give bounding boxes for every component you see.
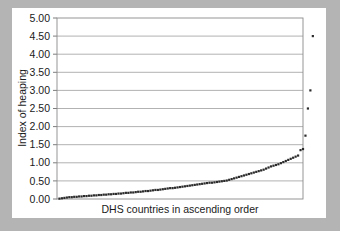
- data-point: [167, 187, 169, 189]
- data-point: [265, 167, 267, 169]
- x-axis-title: DHS countries in ascending order: [102, 203, 260, 215]
- data-point: [206, 182, 208, 184]
- y-tick-label: 2.00: [30, 120, 51, 132]
- data-point: [275, 164, 277, 166]
- data-point: [135, 191, 137, 193]
- data-point: [100, 194, 102, 196]
- data-point: [238, 176, 240, 178]
- data-point: [105, 194, 107, 196]
- data-point: [270, 165, 272, 167]
- data-point: [179, 186, 181, 188]
- data-point: [285, 160, 287, 162]
- y-tick-label: 4.00: [30, 48, 51, 60]
- data-point: [71, 196, 73, 198]
- data-point: [184, 185, 186, 187]
- data-point: [90, 195, 92, 197]
- data-point: [277, 163, 279, 165]
- data-point: [122, 192, 124, 194]
- data-point: [76, 196, 78, 198]
- data-point: [88, 195, 90, 197]
- data-point: [208, 182, 210, 184]
- data-point: [66, 196, 68, 198]
- data-point: [142, 190, 144, 192]
- data-point: [221, 180, 223, 182]
- data-point: [295, 156, 297, 158]
- data-point: [199, 183, 201, 185]
- chart-card: 5.004.504.003.503.002.502.001.501.000.50…: [12, 8, 326, 218]
- data-point: [95, 194, 97, 196]
- y-tick-label: 2.50: [30, 102, 51, 114]
- data-point: [85, 195, 87, 197]
- data-point: [272, 165, 274, 167]
- data-point: [282, 161, 284, 163]
- data-point: [181, 186, 183, 188]
- data-point: [115, 193, 117, 195]
- data-point: [152, 189, 154, 191]
- data-point: [147, 190, 149, 192]
- data-point: [260, 169, 262, 171]
- data-point: [149, 190, 151, 192]
- data-point: [164, 188, 166, 190]
- data-point: [132, 191, 134, 193]
- y-axis-title: Index of heaping: [16, 69, 28, 147]
- y-tick-label: 3.50: [30, 66, 51, 78]
- data-point: [297, 154, 299, 156]
- data-point: [81, 195, 83, 197]
- series-outliers: [299, 35, 314, 151]
- data-point: [250, 172, 252, 174]
- data-point: [280, 162, 282, 164]
- data-point: [117, 192, 119, 194]
- data-point: [154, 189, 156, 191]
- data-point: [223, 180, 225, 182]
- data-point: [245, 174, 247, 176]
- y-axis-tick-labels: 5.004.504.003.503.002.502.001.501.000.50…: [30, 12, 51, 205]
- data-point: [172, 187, 174, 189]
- data-point: [110, 193, 112, 195]
- data-point: [98, 194, 100, 196]
- y-tick-label: 0.50: [30, 175, 51, 187]
- data-point: [140, 191, 142, 193]
- data-point: [267, 166, 269, 168]
- data-point: [176, 186, 178, 188]
- y-tick-label: 5.00: [30, 12, 51, 24]
- gridlines: [57, 36, 303, 181]
- data-point: [58, 198, 60, 200]
- data-point: [108, 193, 110, 195]
- data-point: [73, 196, 75, 198]
- data-point: [144, 190, 146, 192]
- data-point: [191, 184, 193, 186]
- data-point: [159, 188, 161, 190]
- index-of-heaping-scatter-chart: 5.004.504.003.503.002.502.001.501.000.50…: [12, 8, 326, 218]
- data-point: [243, 174, 245, 176]
- data-point: [137, 191, 139, 193]
- data-point: [174, 187, 176, 189]
- data-point: [125, 192, 127, 194]
- data-point: [292, 157, 294, 159]
- data-point: [68, 196, 70, 198]
- data-points-group: [58, 35, 314, 200]
- data-point: [157, 189, 159, 191]
- data-point: [248, 173, 250, 175]
- data-point: [83, 195, 85, 197]
- data-point: [302, 148, 304, 150]
- data-point: [127, 192, 129, 194]
- data-point: [63, 197, 65, 199]
- data-point: [186, 185, 188, 187]
- data-point: [169, 187, 171, 189]
- data-point: [290, 158, 292, 160]
- data-point: [120, 192, 122, 194]
- y-tick-label: 1.00: [30, 156, 51, 168]
- data-point: [235, 177, 237, 179]
- data-point: [231, 178, 233, 180]
- data-point: [189, 185, 191, 187]
- data-point: [309, 89, 311, 91]
- y-tick-label: 1.50: [30, 138, 51, 150]
- data-point: [211, 182, 213, 184]
- data-point: [299, 149, 301, 151]
- data-point: [304, 135, 306, 137]
- data-point: [112, 193, 114, 195]
- data-point: [162, 188, 164, 190]
- data-point: [255, 171, 257, 173]
- data-point: [312, 35, 314, 37]
- data-point: [218, 181, 220, 183]
